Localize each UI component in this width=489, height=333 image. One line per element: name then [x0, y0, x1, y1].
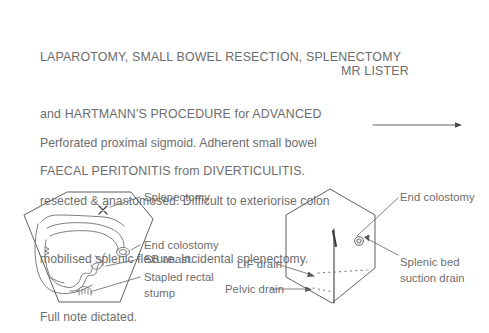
label-splenic-bed-suction-drain: Splenic bed suction drain [400, 255, 465, 286]
label-pelvic-drain: Pelvic drain [225, 282, 284, 298]
note-sheet: LAPAROTOMY, SMALL BOWEL RESECTION, SPLEN… [0, 0, 489, 333]
figure-panel: Splenectomy End colostomy SB anast. Stap… [0, 0, 489, 333]
pelvic-drain-dots [313, 288, 334, 292]
leader-lif-drain [277, 264, 312, 275]
stoma-circle-inner [357, 239, 361, 243]
label-lif-drain: LIF drain [237, 257, 282, 273]
label-end-colostomy-right: End colostomy [400, 190, 475, 206]
arrowhead-lif-drain [307, 272, 315, 278]
leader-end-colostomy-right [357, 198, 398, 236]
lif-drain-dots [318, 270, 367, 273]
stoma-circle-outer [355, 237, 364, 246]
leader-splenic-bed-drain [366, 238, 398, 255]
right-abdomen-hexagon [286, 189, 375, 303]
arrowhead-splenic-bed-drain [364, 235, 370, 242]
